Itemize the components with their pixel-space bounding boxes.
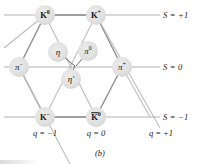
nonet-diagram-svg <box>0 0 200 164</box>
node-circle-piplus <box>112 57 132 77</box>
strangeness-label-plus-1: S = +1 <box>163 10 188 20</box>
charge-label-zero: q = 0 <box>87 128 106 138</box>
page-edge-artifact <box>0 160 40 164</box>
node-circle-K0bar <box>86 107 106 127</box>
meson-nonet-figure: K0 K+ π− η π0 η′ π+ K− K0 S = +1 S = 0 S… <box>0 0 200 164</box>
diagonal-guide-lines <box>4 15 160 164</box>
node-circle-pi0 <box>78 41 98 61</box>
node-circle-K0 <box>35 5 55 25</box>
charge-label-minus-1: q = −1 <box>33 128 57 138</box>
node-circle-etaprime <box>61 69 81 89</box>
strangeness-label-minus-1: S = −1 <box>163 112 188 122</box>
charge-label-plus-1: q = +1 <box>149 128 173 138</box>
strangeness-label-zero: S = 0 <box>163 62 183 72</box>
figure-caption: (b) <box>0 148 200 158</box>
node-circle-Kplus <box>86 5 106 25</box>
node-circle-eta <box>48 42 68 62</box>
node-circle-Kminus <box>35 107 55 127</box>
node-circle-piminus <box>9 57 29 77</box>
